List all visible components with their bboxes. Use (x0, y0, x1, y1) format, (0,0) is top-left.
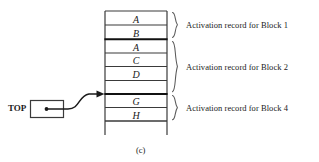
activation-record-braces (173, 13, 178, 120)
stack-cell-letter: D (105, 70, 167, 80)
stack-cell-letter: A (105, 43, 167, 53)
top-pointer-label: TOP (8, 104, 26, 113)
stack-cell-letter: B (105, 29, 167, 39)
activation-record-label-block-2: Activation record for Block 2 (186, 63, 288, 72)
stack-cell-letter: G (105, 97, 167, 107)
stack-cell-letter: A (105, 15, 167, 25)
stack-cell-letter: C (105, 56, 167, 66)
brace-block-2 (173, 42, 178, 92)
activation-record-label-block-4: Activation record for Block 4 (186, 104, 288, 113)
brace-block-4 (173, 96, 178, 120)
brace-block-1 (173, 13, 178, 38)
stack-cell-letter: H (105, 111, 167, 121)
activation-record-stack-figure: A B A C D G H TOP Activation record for … (0, 0, 319, 162)
top-pointer-arrow (47, 90, 105, 109)
activation-record-label-block-1: Activation record for Block 1 (186, 21, 288, 30)
figure-caption: (c) (136, 146, 145, 155)
